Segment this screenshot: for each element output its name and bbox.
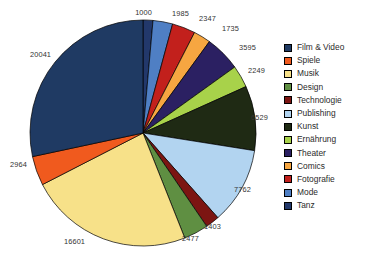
slice-value-label: 1403 xyxy=(204,223,221,231)
legend-swatch-icon xyxy=(284,110,292,118)
legend-item[interactable]: Kunst xyxy=(284,120,376,133)
slice-value-label: 2964 xyxy=(10,161,27,169)
legend-item[interactable]: Mode xyxy=(284,186,376,199)
legend-item-label: Comics xyxy=(297,162,325,171)
slice-value-label: 3595 xyxy=(239,44,256,52)
legend-item[interactable]: Publishing xyxy=(284,107,376,120)
legend-item-label: Publishing xyxy=(297,109,336,118)
slice-value-label: 2347 xyxy=(199,15,216,23)
legend-item[interactable]: Musik xyxy=(284,67,376,80)
legend-item[interactable]: Spiele xyxy=(284,54,376,67)
slice-value-label: 7762 xyxy=(234,186,251,194)
slice-value-label: 1000 xyxy=(135,9,152,17)
pie-slice-group xyxy=(30,20,256,246)
slice-value-label: 1985 xyxy=(172,10,189,18)
legend-item-label: Design xyxy=(297,83,323,92)
slice-value-label: 1735 xyxy=(222,25,239,33)
legend-item-label: Kunst xyxy=(297,122,318,131)
pie-slice[interactable] xyxy=(30,20,143,157)
legend-item-label: Ernährung xyxy=(297,135,336,144)
legend-item[interactable]: Fotografie xyxy=(284,173,376,186)
legend-swatch-icon xyxy=(284,202,292,210)
legend-item[interactable]: Comics xyxy=(284,160,376,173)
pie-plot-area: 1000198523471735359522496529776214032477… xyxy=(0,0,268,255)
legend-item-label: Theater xyxy=(297,149,326,158)
legend-item-label: Tanz xyxy=(297,201,315,210)
legend-swatch-icon xyxy=(284,70,292,78)
legend-swatch-icon xyxy=(284,189,292,197)
legend-item-label: Fotografie xyxy=(297,175,335,184)
slice-value-label: 16601 xyxy=(64,238,85,246)
legend-item-label: Technologie xyxy=(297,96,342,105)
legend-swatch-icon xyxy=(284,162,292,170)
slice-value-label: 20041 xyxy=(30,51,51,59)
legend-item-label: Film & Video xyxy=(297,43,344,52)
slice-value-label: 2249 xyxy=(248,67,265,75)
legend-swatch-icon xyxy=(284,123,292,131)
legend-swatch-icon xyxy=(284,83,292,91)
legend-item[interactable]: Film & Video xyxy=(284,41,376,54)
legend-item[interactable]: Theater xyxy=(284,147,376,160)
legend-swatch-icon xyxy=(284,149,292,157)
legend-swatch-icon xyxy=(284,96,292,104)
slice-value-label: 2477 xyxy=(182,235,199,243)
legend-swatch-icon xyxy=(284,175,292,183)
legend-item-label: Spiele xyxy=(297,56,320,65)
legend-item[interactable]: Technologie xyxy=(284,94,376,107)
slice-value-label: 6529 xyxy=(251,114,268,122)
legend-item[interactable]: Tanz xyxy=(284,199,376,212)
legend-swatch-icon xyxy=(284,44,292,52)
legend-item-label: Mode xyxy=(297,188,318,197)
legend-swatch-icon xyxy=(284,57,292,65)
chart-legend: Film & VideoSpieleMusikDesignTechnologie… xyxy=(284,41,376,212)
legend-item-label: Musik xyxy=(297,69,319,78)
pie-chart: 1000198523471735359522496529776214032477… xyxy=(0,0,376,255)
legend-item[interactable]: Ernährung xyxy=(284,133,376,146)
legend-swatch-icon xyxy=(284,136,292,144)
pie-svg xyxy=(0,0,268,255)
legend-item[interactable]: Design xyxy=(284,81,376,94)
